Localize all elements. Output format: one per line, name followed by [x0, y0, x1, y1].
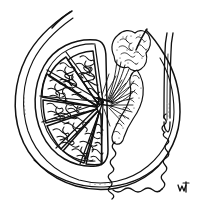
figure-background: [0, 0, 198, 210]
anatomical-figure: Testis and Epididymis in Opened Tunica V…: [0, 0, 198, 210]
testis-section-drawing: [0, 0, 198, 210]
